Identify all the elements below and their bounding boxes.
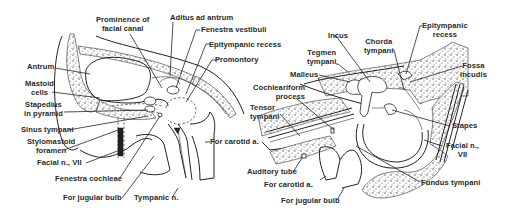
- label-for-jugular-bulb-right: For jugular bulb: [281, 197, 340, 206]
- label-auditory-tube: Auditory tube: [247, 168, 297, 177]
- label-facial-nerve-left: Facial n., VII: [37, 159, 82, 168]
- label-fenestra-vestibuli: Fenestra vestibuli: [201, 26, 266, 35]
- label-prominence-of-facial-canal: Prominence of facial canal: [96, 16, 149, 33]
- label-cochleariform-process: Cochleariform process: [253, 84, 305, 101]
- label-promontory: Promontory: [215, 56, 259, 65]
- label-malleus: Malleus: [290, 71, 318, 80]
- label-mastoid-cells: Mastoid cells: [25, 80, 54, 97]
- label-fundus-tympani: Fundus tympani: [421, 179, 480, 188]
- label-facial-nerve-right: Facial n., VII: [446, 142, 479, 159]
- label-epitympanic-recess-right: Epitympanic recess: [422, 22, 468, 39]
- label-sinus-tympani: Sinus tympani: [21, 126, 74, 135]
- label-chorda-tympani: Chorda tympani: [364, 38, 393, 55]
- label-stylomastoid-foramen: Stylomastoid foramen: [27, 138, 75, 155]
- label-for-jugular-bulb-left: For jugular bulb: [63, 194, 122, 203]
- label-fenestra-cochleae: Fenestra cochleae: [55, 175, 122, 184]
- label-epitympanic-recess-left: Epitympanic recess: [209, 41, 281, 50]
- label-stapedius-in-pyramid: Stapedius in pyramid: [24, 101, 63, 118]
- label-tegmen-tympani: Tegmen tympani: [307, 49, 336, 66]
- label-fossa-incudis: Fossa incudis: [460, 62, 487, 79]
- label-aditus-ad-antrum: Aditus ad antrum: [170, 14, 233, 23]
- label-for-carotid-left: For carotid a.: [210, 138, 259, 147]
- label-tympanic-nerve: Tympanic n.: [134, 194, 178, 203]
- label-antrum: Antrum: [27, 63, 54, 72]
- label-for-carotid-right: For carotid a.: [264, 181, 313, 190]
- label-incus: Incus: [328, 32, 348, 41]
- label-tensor-tympani: Tensor tympani: [250, 104, 279, 121]
- label-stapes: Stapes: [452, 122, 477, 131]
